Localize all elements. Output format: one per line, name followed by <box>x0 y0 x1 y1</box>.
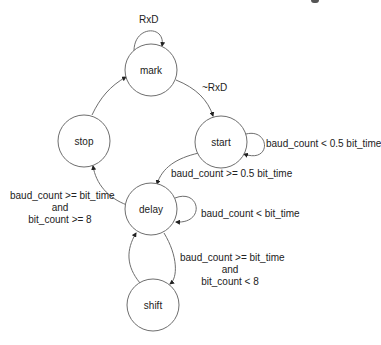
edge-delay-self <box>175 196 196 222</box>
edge-shift-to-delay <box>129 233 140 283</box>
label-line: baud_count >= bit_time <box>180 252 280 264</box>
label-line: and <box>180 264 280 276</box>
transition-label-start-self: baud_count < 0.5 bit_time <box>266 138 381 150</box>
state-label-delay: delay <box>139 204 163 215</box>
state-label-shift: shift <box>144 300 162 311</box>
label-line: bit_count >= 8 <box>10 214 110 226</box>
label-line: baud_count >= bit_time <box>10 190 110 202</box>
transition-label-delay-self: baud_count < bit_time <box>201 208 300 220</box>
state-label-stop: stop <box>75 136 94 147</box>
edge-stop-to-mark <box>92 77 126 115</box>
edge-delay-to-shift <box>164 233 175 284</box>
transition-label-mark-to-start: ~RxD <box>202 82 227 94</box>
label-line: and <box>10 202 110 214</box>
label-line: bit_count < 8 <box>180 276 280 288</box>
transition-label-delay-to-stop: baud_count >= bit_time and bit_count >= … <box>10 190 110 226</box>
transition-label-mark-self: RxD <box>139 14 158 26</box>
transition-label-delay-to-shift: baud_count >= bit_time and bit_count < 8 <box>180 252 280 288</box>
state-label-start: start <box>211 137 230 148</box>
transition-label-start-to-delay: baud_count >= 0.5 bit_time <box>171 168 292 180</box>
state-label-mark: mark <box>140 65 162 76</box>
